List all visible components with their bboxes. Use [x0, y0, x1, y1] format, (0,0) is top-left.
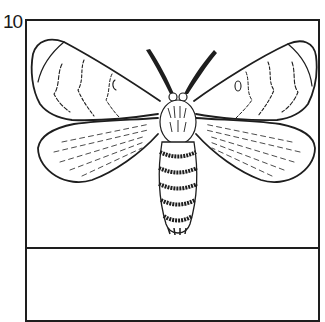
figure-number: 10 — [3, 12, 22, 31]
right-hindwing — [196, 118, 315, 182]
thorax — [160, 100, 196, 144]
left-hindwing — [38, 118, 158, 182]
abdomen — [159, 142, 197, 235]
empty-caption-panel — [27, 249, 318, 320]
left-forewing — [32, 40, 160, 120]
illustration-panel — [27, 21, 318, 247]
figure-frame — [25, 19, 320, 322]
antennae — [146, 49, 217, 94]
moth-illustration — [27, 21, 318, 247]
